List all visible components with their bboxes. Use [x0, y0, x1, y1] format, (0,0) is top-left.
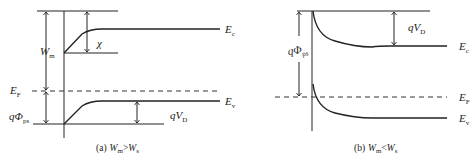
label-qphi-ps: qΦps — [9, 110, 29, 125]
panel-a: Wm χ EF qΦps Ec Ev qVD (a)Wm>Ws — [9, 11, 236, 155]
label-ec: Ec — [224, 23, 235, 38]
label-ec: Ec — [458, 40, 469, 55]
label-ef: EF — [458, 91, 470, 106]
label-ev: Ev — [458, 112, 470, 127]
label-qvd: qVD — [170, 109, 187, 124]
label-wm: Wm — [40, 45, 55, 60]
label-ef: EF — [9, 84, 21, 99]
valence-band-ev — [313, 84, 447, 118]
caption-a: (a)Wm>Ws — [96, 143, 139, 155]
label-chi: χ — [96, 37, 103, 49]
valence-band-ev — [64, 101, 220, 124]
label-ev: Ev — [224, 95, 236, 110]
conduction-band-ec — [313, 11, 447, 47]
panel-b: qΦps qVD Ec EF Ev (b)Wm<Ws — [275, 11, 470, 155]
band-diagram-figure: Wm χ EF qΦps Ec Ev qVD (a)Wm>Ws qΦps qVD… — [0, 0, 475, 165]
label-qphi-ps: qΦps — [287, 42, 309, 60]
label-qvd: qVD — [408, 21, 425, 36]
caption-b: (b)Wm<Ws — [354, 143, 398, 155]
